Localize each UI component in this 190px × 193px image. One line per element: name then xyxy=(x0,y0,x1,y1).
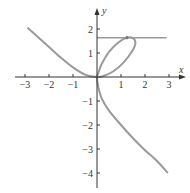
chart: −3−2−1123 21−1−2−3−4 x y xyxy=(0,0,190,193)
x-tick-label: 3 xyxy=(167,79,172,90)
x-axis-label: x xyxy=(178,64,184,75)
y-tick-label: −3 xyxy=(82,144,93,155)
y-tick-label: −4 xyxy=(82,168,93,179)
parametric-curve xyxy=(27,28,167,173)
y-tick-label: −1 xyxy=(82,96,93,107)
y-axis-label: y xyxy=(101,5,107,16)
y-axis-arrow-icon xyxy=(95,8,100,15)
y-tick-label: −2 xyxy=(82,120,93,131)
y-tick-label: 1 xyxy=(88,48,93,59)
y-tick-label: 2 xyxy=(88,24,93,35)
tangent-point-marker xyxy=(125,36,128,39)
x-tick-label: 2 xyxy=(143,79,148,90)
x-tick-label: −2 xyxy=(44,79,55,90)
curve-layer xyxy=(27,28,167,173)
x-tick-label: −1 xyxy=(68,79,79,90)
x-tick-label: 1 xyxy=(119,79,124,90)
x-tick-label: −3 xyxy=(20,79,31,90)
x-axis-arrow-icon xyxy=(179,75,186,80)
